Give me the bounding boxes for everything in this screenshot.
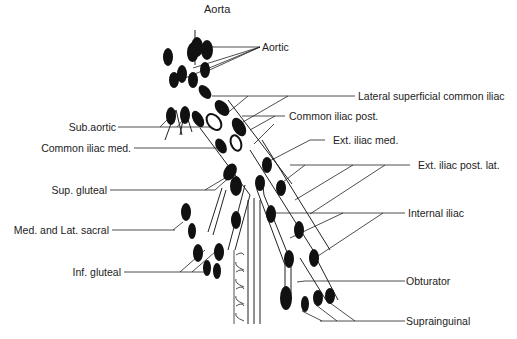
lymph-node-diagram: Aorta Aortic Lateral superficial common … bbox=[0, 0, 517, 339]
label-inf-gluteal: Inf. gluteal bbox=[73, 266, 121, 278]
label-lateral-superficial-common-iliac: Lateral superficial common iliac bbox=[358, 90, 504, 102]
label-ext-iliac-med: Ext. iliac med. bbox=[333, 134, 398, 146]
lymph-nodes bbox=[163, 37, 335, 312]
label-internal-iliac: Internal iliac bbox=[408, 207, 464, 219]
label-sub-aortic: Sub.aortic bbox=[69, 121, 116, 133]
label-ext-iliac-post-lat: Ext. iliac post. lat. bbox=[418, 159, 500, 171]
label-common-iliac-med: Common iliac med. bbox=[41, 142, 131, 154]
label-obturator: Obturator bbox=[406, 275, 450, 287]
sacral-hatching bbox=[234, 250, 244, 324]
label-common-iliac-post: Common iliac post. bbox=[289, 110, 378, 122]
label-med-and-lat-sacral: Med. and Lat. sacral bbox=[14, 224, 109, 236]
label-aortic: Aortic bbox=[262, 41, 289, 53]
label-suprainguinal: Suprainguinal bbox=[406, 315, 470, 327]
label-sup-gluteal: Sup. gluteal bbox=[52, 184, 107, 196]
aorta-title: Aorta bbox=[204, 3, 230, 15]
